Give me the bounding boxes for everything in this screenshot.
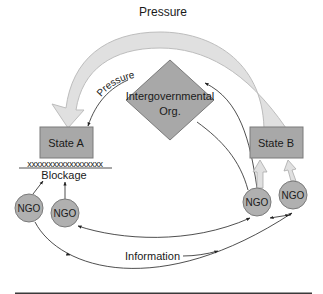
information-label: Information	[125, 250, 180, 262]
blockage-marks: xxxxxxxxxxxxxxxxxx	[27, 159, 103, 169]
igo-label-line1: Intergovernmental	[126, 90, 215, 102]
ngo-node-3: NGO	[243, 188, 271, 216]
state-a-label: State A	[48, 137, 84, 149]
ngo-node-4: NGO	[279, 181, 307, 209]
blockage-label: Blockage	[41, 169, 86, 181]
intergovernmental-org-node: Intergovernmental Org.	[126, 60, 215, 140]
diagram-canvas: Pressure Pressure Intergovernmental Org.…	[0, 0, 323, 294]
ngo-label: NGO	[282, 190, 305, 201]
igo-to-ngo-line	[197, 122, 248, 190]
top-pressure-label: Pressure	[139, 5, 187, 19]
ngo2-ngo3-info-arrow	[78, 218, 250, 237]
ngo-label: NGO	[246, 197, 269, 208]
ngo1-to-blockage-arrow	[33, 181, 43, 194]
igo-label-line2: Org.	[159, 105, 180, 117]
ngo-node-1: NGO	[15, 194, 43, 222]
ngo-node-2: NGO	[51, 199, 79, 227]
ngo-label: NGO	[54, 208, 77, 219]
ngo-label: NGO	[18, 203, 41, 214]
state-b-node: State B	[250, 127, 303, 158]
state-b-label: State B	[258, 137, 294, 149]
state-a-node: State A	[40, 127, 93, 158]
